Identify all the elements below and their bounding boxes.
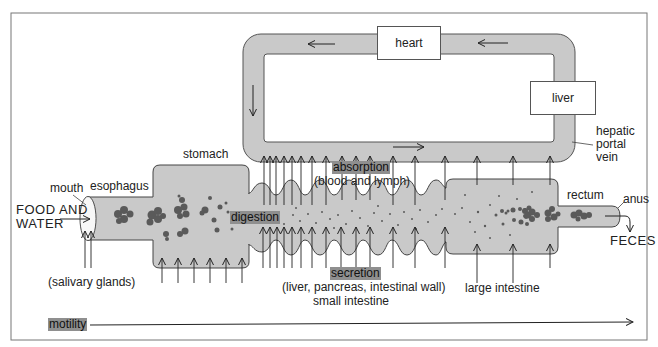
large-intestine-label: large intestine [465, 282, 540, 295]
digestion-label: digestion [230, 211, 280, 224]
heart-label: heart [395, 36, 422, 50]
esophagus-label: esophagus [90, 180, 149, 193]
food-label-line1: FOOD AND [16, 203, 88, 216]
mouth-label: mouth [50, 182, 83, 195]
food-label-line2: WATER [16, 217, 64, 230]
heart-box: heart [377, 26, 441, 60]
secretion-label: secretion [330, 267, 381, 280]
motility-label: motility [48, 318, 87, 331]
stomach-label: stomach [183, 148, 228, 161]
salivary-glands-label: (salivary glands) [48, 276, 135, 289]
absorption-label: absorption [332, 161, 390, 174]
anus-label: anus [623, 193, 649, 206]
small-intestine-label: small intestine [313, 295, 389, 308]
liver-label: liver [552, 91, 574, 105]
secretion-detail-label: (liver, pancreas, intestinal wall) [282, 281, 445, 294]
feces-label: FECES [610, 234, 656, 247]
rectum-label: rectum [567, 189, 604, 202]
liver-box: liver [530, 81, 596, 115]
hepatic-portal-vein-label: hepatic portal vein [596, 125, 635, 164]
absorption-detail-label: (blood and lymph) [314, 175, 410, 188]
